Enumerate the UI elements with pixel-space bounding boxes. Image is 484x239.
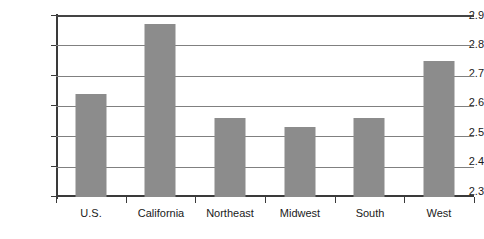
bar-south[interactable] (354, 118, 385, 197)
bar-midwest[interactable] (284, 127, 315, 197)
bars-layer (56, 15, 474, 197)
x-tick-label-midwest: Midwest (280, 207, 320, 219)
bar-west[interactable] (424, 61, 455, 198)
bar-us[interactable] (75, 94, 106, 197)
bar-chart: 2.9 2.8 2.7 2.6 2.5 2.4 2.3 (0, 0, 484, 239)
bar-california[interactable] (145, 24, 176, 197)
x-tick-label-northeast: Northeast (206, 207, 254, 219)
bar-slot (265, 15, 335, 197)
x-tick-label-west: West (427, 207, 452, 219)
x-tick-mark (195, 197, 196, 203)
x-tick-mark (265, 197, 266, 203)
x-tick-mark (474, 197, 475, 203)
bar-slot (126, 15, 196, 197)
bar-slot (56, 15, 126, 197)
x-tick-mark (126, 197, 127, 203)
bar-slot (335, 15, 405, 197)
x-tick-label-us: U.S. (80, 207, 101, 219)
x-tick-label-south: South (356, 207, 385, 219)
x-tick-label-california: California (138, 207, 184, 219)
bar-slot (195, 15, 265, 197)
x-tick-mark (404, 197, 405, 203)
bar-slot (404, 15, 474, 197)
x-tick-mark (335, 197, 336, 203)
x-tick-mark (56, 197, 57, 203)
bar-northeast[interactable] (215, 118, 246, 197)
